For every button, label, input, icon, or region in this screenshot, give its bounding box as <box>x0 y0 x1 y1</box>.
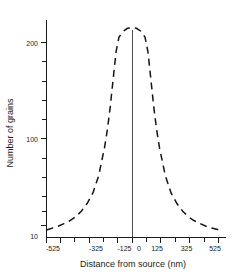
x-tick-label-125: 125 <box>151 245 163 252</box>
grain-distribution-chart: 200 100 10 -525 -325 -125 0 125 325 <box>0 0 234 276</box>
x-tick-label-neg125: -125 <box>117 245 131 252</box>
plot-axes <box>47 20 227 238</box>
x-axis-tick-labels: -525 -325 -125 0 125 325 525 <box>46 245 221 252</box>
y-axis-ticks <box>41 43 47 226</box>
x-axis-ticks <box>47 238 219 244</box>
y-tick-label-10: 10 <box>30 233 38 240</box>
grain-count-curve <box>47 28 224 231</box>
y-tick-label-100: 100 <box>26 136 38 143</box>
x-tick-label-neg325: -325 <box>89 245 103 252</box>
y-axis-tick-labels: 200 100 10 <box>26 40 38 241</box>
y-axis-title: Number of grains <box>5 98 15 168</box>
x-tick-label-zero: 0 <box>137 245 141 252</box>
x-tick-label-neg525: -525 <box>46 245 60 252</box>
y-tick-label-200: 200 <box>26 40 38 47</box>
x-tick-label-525: 525 <box>209 245 221 252</box>
x-tick-label-325: 325 <box>181 245 193 252</box>
x-axis-title: Distance from source (nm) <box>80 259 186 269</box>
chart-figure: 200 100 10 -525 -325 -125 0 125 325 <box>0 0 234 276</box>
